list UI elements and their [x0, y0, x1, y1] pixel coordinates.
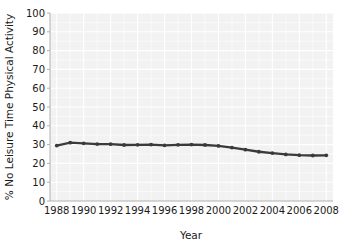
- x-tick-label: 2006: [287, 205, 312, 216]
- x-tick-label: 1998: [179, 205, 204, 216]
- y-tick-label: 40: [32, 120, 45, 131]
- x-tick-label: 1996: [152, 205, 177, 216]
- x-tick-label: 2000: [206, 205, 231, 216]
- data-point-marker: [311, 154, 315, 158]
- y-tick-label: 80: [32, 45, 45, 56]
- data-point-marker: [55, 144, 59, 148]
- y-tick-label: 20: [32, 158, 45, 169]
- data-point-marker: [203, 143, 207, 147]
- x-tick-label: 2002: [233, 205, 258, 216]
- y-tick-label: 100: [26, 8, 45, 19]
- y-tick-label: 10: [32, 177, 45, 188]
- y-axis-tick-labels: 0102030405060708090100: [26, 8, 45, 207]
- x-axis-title: Year: [179, 229, 203, 241]
- y-tick-label: 70: [32, 64, 45, 75]
- data-point-marker: [284, 152, 288, 156]
- data-point-marker: [163, 143, 167, 147]
- x-tick-label: 1988: [44, 205, 69, 216]
- data-point-marker: [82, 141, 86, 145]
- x-tick-label: 1992: [98, 205, 123, 216]
- x-tick-label: 2004: [260, 205, 285, 216]
- x-axis-tick-labels: 1988199019921994199619982000200220042006…: [44, 205, 339, 216]
- y-tick-label: 60: [32, 83, 45, 94]
- x-tick-label: 1990: [71, 205, 96, 216]
- x-tick-label: 2008: [314, 205, 339, 216]
- line-chart: 0102030405060708090100 19881990199219941…: [0, 0, 342, 245]
- data-point-marker: [244, 148, 248, 152]
- y-tick-label: 30: [32, 139, 45, 150]
- data-point-marker: [217, 144, 221, 148]
- data-point-marker: [190, 143, 194, 147]
- data-point-marker: [136, 143, 140, 147]
- y-tick-label: 90: [32, 26, 45, 37]
- chart-canvas: 0102030405060708090100 19881990199219941…: [0, 0, 342, 245]
- data-point-marker: [176, 143, 180, 147]
- data-point-marker: [95, 142, 99, 146]
- data-point-marker: [68, 141, 72, 145]
- x-tick-label: 1994: [125, 205, 150, 216]
- data-point-marker: [122, 143, 126, 147]
- data-point-marker: [149, 143, 153, 147]
- data-point-marker: [109, 142, 113, 146]
- data-point-marker: [270, 151, 274, 155]
- data-point-marker: [297, 153, 301, 157]
- y-tick-label: 50: [32, 102, 45, 113]
- data-point-marker: [324, 153, 328, 157]
- data-point-marker: [257, 150, 261, 154]
- y-axis-title: % No Leisure Time Physical Activity: [3, 14, 15, 200]
- data-point-marker: [230, 146, 234, 150]
